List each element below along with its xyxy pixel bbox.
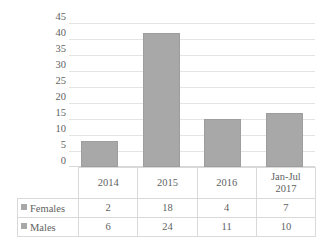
legend-label-males: Males	[30, 221, 56, 232]
category-label-line: 2017	[257, 183, 315, 195]
category-header-2016: 2016	[197, 168, 256, 199]
y-tick-label: 35	[40, 43, 66, 54]
bar-chart-with-data-table: 45 40 35 30 25 20 15 10 5 0	[0, 0, 333, 246]
legend-item-females[interactable]: Females	[18, 199, 79, 218]
category-header-2014: 2014	[79, 168, 138, 199]
bar-slot-2014	[69, 23, 131, 167]
bars-container	[69, 23, 315, 167]
y-tick-label: 0	[40, 155, 66, 166]
cell-males-2016: 11	[197, 218, 256, 237]
category-label-line: 2015	[138, 177, 196, 189]
category-header-2015: 2015	[138, 168, 197, 199]
cell-males-2015: 24	[138, 218, 197, 237]
table-row: Males 6 24 11 10	[18, 218, 316, 237]
cell-males-2014: 6	[79, 218, 138, 237]
legend-label-females: Females	[30, 202, 65, 213]
chart-data-table: 2014 2015 2016 Jan-Jul 2017 Females 2 1	[17, 167, 316, 237]
bar-2015[interactable]	[143, 33, 180, 167]
category-label-line: 2016	[198, 177, 256, 189]
category-header-jan-jul-2017: Jan-Jul 2017	[256, 168, 315, 199]
plot-area: 45 40 35 30 25 20 15 10 5 0	[0, 0, 333, 170]
category-label-line: 2014	[79, 177, 137, 189]
cell-females-2015: 18	[138, 199, 197, 218]
cell-males-jan-jul-2017: 10	[256, 218, 315, 237]
cell-females-jan-jul-2017: 7	[256, 199, 315, 218]
y-tick-label: 30	[40, 59, 66, 70]
table-row: Females 2 18 4 7	[18, 199, 316, 218]
legend-swatch-icon	[21, 223, 27, 229]
y-tick-label: 5	[40, 139, 66, 150]
y-tick-label: 20	[40, 91, 66, 102]
y-axis-tick-labels: 45 40 35 30 25 20 15 10 5 0	[40, 16, 66, 168]
cell-females-2016: 4	[197, 199, 256, 218]
bar-jan-jul-2017[interactable]	[266, 113, 303, 167]
bar-2016[interactable]	[204, 119, 241, 167]
category-label-line: Jan-Jul	[257, 171, 315, 183]
y-tick-label: 40	[40, 27, 66, 38]
cell-females-2014: 2	[79, 199, 138, 218]
y-tick-label: 15	[40, 107, 66, 118]
bar-slot-2015	[131, 23, 193, 167]
y-tick-label: 45	[40, 11, 66, 22]
bar-2014[interactable]	[81, 141, 118, 167]
bar-slot-jan-jul-2017	[254, 23, 316, 167]
table-row-categories: 2014 2015 2016 Jan-Jul 2017	[18, 168, 316, 199]
y-tick-label: 10	[40, 123, 66, 134]
y-tick-label: 25	[40, 75, 66, 86]
table-corner-cell	[18, 168, 79, 199]
legend-swatch-icon	[21, 204, 27, 210]
bar-slot-2016	[192, 23, 254, 167]
legend-item-males[interactable]: Males	[18, 218, 79, 237]
